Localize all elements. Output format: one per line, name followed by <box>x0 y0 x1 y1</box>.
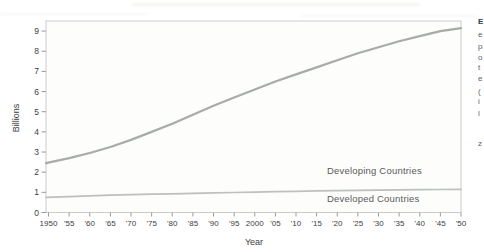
x-axis-tick-label: 1950 <box>40 219 58 228</box>
caption-fragment: i <box>478 98 480 106</box>
y-axis-title: Billions <box>10 94 22 142</box>
x-axis-tick-label: '30 <box>373 219 384 228</box>
x-axis-tick-label: '75 <box>146 219 157 228</box>
x-axis-tick-label: '40 <box>415 219 426 228</box>
caption-fragment: o <box>478 54 482 62</box>
x-axis-tick-label: '95 <box>229 219 240 228</box>
x-axis-tick-label: '25 <box>353 219 364 228</box>
x-axis-tick-label: '20 <box>332 219 343 228</box>
caption-fragment: p <box>478 43 482 51</box>
x-axis-tick-label: 2000 <box>246 219 264 228</box>
caption-fragment: e <box>478 31 482 39</box>
plot-border <box>46 21 461 213</box>
figure-canvas: 01234567891950'55'60'65'70'75'80'85'90'9… <box>0 0 484 252</box>
x-axis-title: Year <box>230 237 278 247</box>
y-axis-tick-label: 0 <box>34 208 39 218</box>
x-axis-tick-label: '50 <box>456 219 467 228</box>
x-axis-tick-label: '35 <box>394 219 405 228</box>
y-axis-tick-label: 7 <box>34 66 39 76</box>
y-axis-tick-label: 9 <box>34 26 39 36</box>
developed-countries-label: Developed Countries <box>327 193 420 204</box>
x-axis-tick-label: '55 <box>64 219 75 228</box>
x-axis-tick-label: '65 <box>105 219 116 228</box>
y-axis-tick-label: 2 <box>34 167 39 177</box>
caption-fragment: E <box>478 18 483 26</box>
y-axis-tick-label: 6 <box>34 87 39 97</box>
x-axis-tick-label: '70 <box>126 219 137 228</box>
y-axis-tick-label: 3 <box>34 147 39 157</box>
caption-fragment: z <box>478 140 482 148</box>
caption-fragment: l <box>478 110 480 118</box>
developing-countries-label: Developing Countries <box>327 165 422 176</box>
x-axis-tick-label: '15 <box>311 219 322 228</box>
x-axis-tick-label: '60 <box>85 219 96 228</box>
caption-fragment: t <box>478 64 480 72</box>
x-axis-tick-label: '05 <box>270 219 281 228</box>
y-axis-tick-label: 4 <box>34 127 39 137</box>
x-axis-tick-label: '10 <box>291 219 302 228</box>
x-axis-tick-label: '90 <box>208 219 219 228</box>
y-axis-tick-label: 8 <box>34 46 39 56</box>
cropped-caption-column: Eepote(ilz <box>477 0 484 252</box>
caption-fragment: ( <box>478 88 481 96</box>
x-axis-tick-label: '80 <box>167 219 178 228</box>
y-axis-tick-label: 1 <box>34 187 39 197</box>
x-axis-tick-label: '45 <box>435 219 446 228</box>
caption-fragment: e <box>478 75 482 83</box>
population-line-chart: 01234567891950'55'60'65'70'75'80'85'90'9… <box>0 0 484 252</box>
y-axis-tick-label: 5 <box>34 107 39 117</box>
x-axis-tick-label: '85 <box>188 219 199 228</box>
